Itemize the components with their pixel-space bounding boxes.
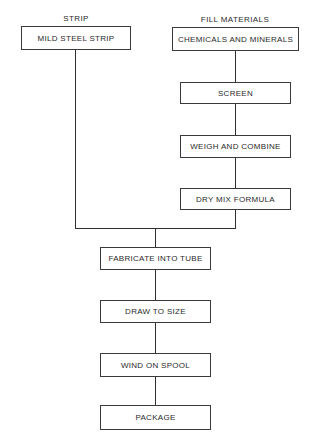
flowchart: STRIP FILL MATERIALS MILD STEEL STRIP CH… [0,0,323,442]
step-mild-steel-strip: MILD STEEL STRIP [21,26,131,50]
heading-fill-materials: FILL MATERIALS [201,15,269,24]
connector-right-4 [235,210,236,228]
connector-right-1 [235,51,236,82]
connector-center-2 [155,323,156,353]
connector-right-2 [235,104,236,135]
connector-center-3 [155,377,156,405]
step-screen: SCREEN [180,82,291,104]
connector-merge-down [155,228,156,247]
step-dry-mix-formula: DRY MIX FORMULA [180,188,291,210]
step-weigh-and-combine: WEIGH AND COMBINE [180,135,291,158]
connector-right-3 [235,158,236,188]
step-chemicals-and-minerals: CHEMICALS AND MINERALS [172,27,299,51]
step-fabricate-into-tube: FABRICATE INTO TUBE [100,247,211,270]
step-package: PACKAGE [100,405,211,430]
connector-center-1 [155,270,156,300]
step-draw-to-size: DRAW TO SIZE [100,300,211,323]
connector-left-vertical [75,50,76,228]
step-wind-on-spool: WIND ON SPOOL [100,353,211,377]
heading-strip: STRIP [63,14,89,23]
